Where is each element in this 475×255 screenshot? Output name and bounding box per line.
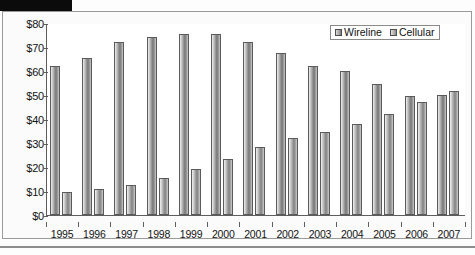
x-axis-tick-mark (433, 222, 434, 227)
legend-label-wireline: Wireline (344, 27, 382, 38)
y-axis-tick-label: $40 (4, 115, 44, 126)
bottom-divider (0, 246, 475, 248)
bar-wireline-1996 (82, 58, 92, 215)
legend-swatch-cellular (390, 29, 397, 36)
plot-area (46, 24, 465, 216)
y-axis-tick-label: $20 (4, 163, 44, 174)
bar-group (369, 24, 401, 215)
bar-wireline-2004 (340, 71, 350, 215)
x-axis-tick-mark (46, 222, 47, 227)
x-axis-label-2007: 2007 (429, 229, 469, 240)
bar-wireline-2005 (372, 84, 382, 215)
y-axis-tick-label: $50 (4, 91, 44, 102)
bar-wireline-1998 (147, 37, 157, 215)
bar-wireline-1999 (179, 34, 189, 215)
x-axis-tick-mark (207, 222, 208, 227)
y-axis-tick-mark (44, 96, 48, 97)
bar-group (273, 24, 305, 215)
bar-cellular-2001 (255, 147, 265, 215)
bar-cellular-1998 (159, 178, 169, 215)
bar-group (240, 24, 272, 215)
chart-legend: Wireline Cellular (330, 25, 440, 40)
x-axis-tick-mark (336, 222, 337, 227)
bar-cellular-2006 (417, 102, 427, 215)
bar-cellular-1995 (62, 192, 72, 215)
y-axis-tick-label: $10 (4, 187, 44, 198)
x-axis-tick-mark (304, 222, 305, 227)
y-axis-tick-mark (44, 216, 48, 217)
bar-group (176, 24, 208, 215)
bar-cellular-1996 (94, 189, 104, 215)
bar-group (337, 24, 369, 215)
x-axis-tick-mark (272, 222, 273, 227)
bar-cellular-2004 (352, 124, 362, 215)
x-axis-tick-mark (368, 222, 369, 227)
bar-group (144, 24, 176, 215)
x-axis-tick-mark (175, 222, 176, 227)
bar-group (111, 24, 143, 215)
bar-group (47, 24, 79, 215)
bar-cellular-2007 (449, 91, 459, 215)
bar-cellular-1999 (191, 169, 201, 215)
bar-group (402, 24, 434, 215)
x-axis-tick-mark (143, 222, 144, 227)
bar-group (434, 24, 466, 215)
y-axis-tick-label: $30 (4, 139, 44, 150)
x-axis-tick-mark (78, 222, 79, 227)
y-axis-tick-mark (44, 72, 48, 73)
y-axis-tick-mark (44, 48, 48, 49)
y-axis-tick-label: $70 (4, 43, 44, 54)
bar-wireline-1997 (114, 42, 124, 215)
legend-label-cellular: Cellular (399, 27, 435, 38)
y-axis: $0$10$20$30$40$50$60$70$80 (0, 0, 44, 255)
x-axis-tick-mark (401, 222, 402, 227)
legend-item-wireline: Wireline (335, 27, 382, 38)
y-axis-tick-mark (44, 168, 48, 169)
y-axis-tick-label: $80 (4, 19, 44, 30)
x-axis-tick-mark (110, 222, 111, 227)
y-axis-tick-label: $60 (4, 67, 44, 78)
bar-wireline-2007 (437, 95, 447, 215)
legend-swatch-wireline (335, 29, 342, 36)
bar-cellular-2000 (223, 159, 233, 215)
x-axis-labels: 1995199619971998199920002001200220032004… (46, 222, 465, 238)
bar-group (208, 24, 240, 215)
y-axis-tick-mark (44, 24, 48, 25)
y-axis-tick-mark (44, 192, 48, 193)
bar-group (79, 24, 111, 215)
y-axis-tick-label: $0 (4, 211, 44, 222)
bar-group (305, 24, 337, 215)
bar-wireline-2000 (211, 34, 221, 215)
bar-wireline-2006 (405, 96, 415, 215)
x-axis-tick-mark (239, 222, 240, 227)
bar-cellular-2002 (288, 138, 298, 215)
bar-cellular-2003 (320, 132, 330, 215)
bar-wireline-2002 (276, 53, 286, 215)
bar-cellular-2005 (384, 114, 394, 215)
y-axis-tick-mark (44, 144, 48, 145)
chart-figure: $0$10$20$30$40$50$60$70$80 1995199619971… (0, 0, 475, 255)
legend-item-cellular: Cellular (390, 27, 435, 38)
bar-cellular-1997 (126, 185, 136, 215)
bar-wireline-2001 (243, 42, 253, 215)
y-axis-tick-mark (44, 120, 48, 121)
bar-wireline-1995 (50, 66, 60, 215)
bar-wireline-2003 (308, 66, 318, 215)
x-axis-tick-mark (465, 222, 466, 227)
